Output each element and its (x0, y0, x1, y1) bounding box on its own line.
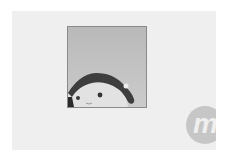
media-card: m (12, 11, 216, 150)
logo-glyph: m (193, 108, 216, 140)
brand-logo-icon[interactable]: m (186, 106, 216, 144)
doll-image-icon (68, 27, 146, 107)
photo-thumbnail[interactable] (67, 26, 147, 108)
